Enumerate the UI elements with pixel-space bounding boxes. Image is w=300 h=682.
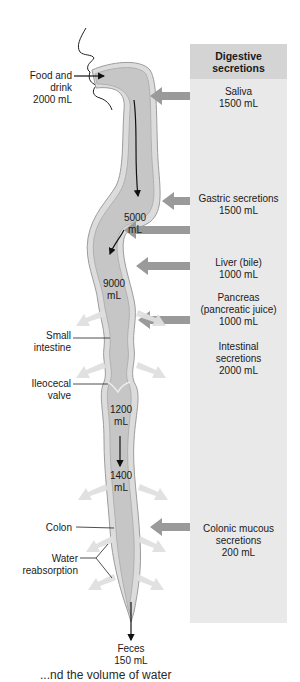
colonic-arrow <box>150 518 190 536</box>
gastric-arrow <box>162 192 190 210</box>
food-and-drink-label: Food and drink 2000 mL <box>16 70 72 106</box>
small-intestine-label: Small intestine <box>20 330 71 354</box>
feces-label: Feces 150 mL <box>108 643 154 667</box>
volume-duodenum-label: 9000 mL <box>97 278 131 302</box>
intestinal-secretions-label: Intestinal secretions 2000 mL <box>190 341 287 377</box>
pancreas-arrow <box>136 257 190 275</box>
colonic-mucous-label: Colonic mucous secretions 200 mL <box>190 523 287 559</box>
pancreas-label: Pancreas (pancreatic juice) 1000 mL <box>190 292 287 328</box>
liver-bile-label: Liver (bile) 1000 mL <box>190 257 287 281</box>
volume-colon-label: 1400 mL <box>104 470 138 494</box>
volume-stomach-label: 5000 mL <box>118 212 152 236</box>
saliva-label: Saliva 1500 mL <box>190 86 287 110</box>
gastric-secretions-label: Gastric secretions 1500 mL <box>190 193 287 217</box>
water-reabsorption-label: Water reabsorption <box>4 553 78 577</box>
panel-title: Digestive secretions <box>190 44 287 79</box>
caption-partial: ...nd the volume of water <box>40 668 300 682</box>
volume-cecum-label: 1200 mL <box>104 404 138 428</box>
colon-label: Colon <box>20 522 72 534</box>
ileocecal-valve-label: Ileocecal valve <box>10 378 71 402</box>
